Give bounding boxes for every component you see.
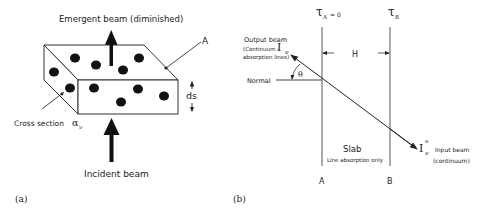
tau-a-subscript: A bbox=[322, 14, 328, 20]
emergent-beam-label: Emergent beam (diminished) bbox=[59, 14, 183, 24]
tau-a-symbol: τ bbox=[316, 5, 323, 19]
cross-section-leader-dot bbox=[61, 93, 64, 96]
cross-section-symbol: α bbox=[72, 117, 79, 128]
input-beam-ray bbox=[390, 129, 417, 149]
thickness-label: ds bbox=[186, 90, 197, 101]
diagram-canvas: Emergent beam (diminished) bbox=[0, 0, 483, 219]
angle-label: θ bbox=[298, 70, 303, 79]
boundary-label-a: A bbox=[319, 177, 325, 186]
area-label: A bbox=[202, 36, 209, 46]
output-intensity-subscript: ν bbox=[285, 48, 289, 55]
area-leader-line bbox=[166, 42, 201, 68]
area-leader-dot bbox=[164, 66, 167, 69]
output-beam-sublabel-1: (Continuum - bbox=[243, 46, 279, 52]
input-intensity-subscript: ν bbox=[425, 149, 429, 156]
output-intensity-symbol: I bbox=[277, 41, 281, 54]
panel-a-label: (a) bbox=[15, 194, 27, 204]
input-intensity-symbol: I bbox=[419, 142, 423, 155]
panel-b: τ A = 0 τ B H Output beam (Continuum - a… bbox=[233, 5, 470, 204]
emergent-beam-shaft bbox=[110, 44, 114, 66]
input-beam-sublabel: (continuum) bbox=[433, 157, 470, 164]
width-label: H bbox=[352, 50, 358, 59]
panel-b-label: (b) bbox=[233, 194, 246, 204]
output-beam-sublabel-2: absorption lines) bbox=[243, 54, 289, 61]
boundary-label-b: B bbox=[387, 177, 393, 186]
normal-label: Normal bbox=[247, 77, 271, 85]
incident-beam-label: Incident beam bbox=[84, 169, 149, 179]
slab-sublabel: Line absorption only bbox=[327, 157, 384, 164]
tau-a-value: = 0 bbox=[330, 11, 341, 18]
tau-b-symbol: τ bbox=[388, 5, 395, 19]
cross-section-subscript: ν bbox=[79, 124, 83, 130]
input-intensity-superscript: o bbox=[425, 138, 429, 144]
cross-section-leader-line bbox=[42, 92, 64, 109]
cross-section-label: Cross section bbox=[14, 119, 64, 128]
panel-a: Emergent beam (diminished) bbox=[14, 14, 209, 204]
incident-beam-arrow bbox=[104, 118, 120, 162]
input-beam-label: Input beam bbox=[435, 146, 470, 154]
slab-label: Slab bbox=[343, 144, 361, 154]
tau-b-subscript: B bbox=[395, 14, 399, 20]
